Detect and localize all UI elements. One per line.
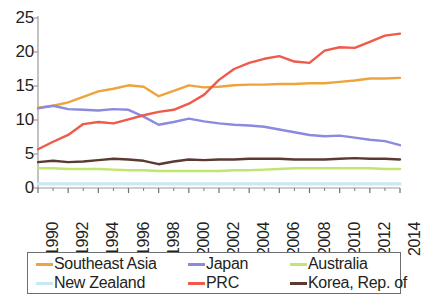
legend-item-korea-rep-of[interactable]: Korea, Rep. of <box>290 273 407 293</box>
legend-item-southeast-asia[interactable]: Southeast Asia <box>36 254 157 274</box>
axis-spine <box>38 16 400 188</box>
legend-color-swatch <box>188 282 205 285</box>
y-tick-label: 20 <box>4 43 34 60</box>
series-line-prc <box>38 34 400 150</box>
legend-color-swatch <box>188 263 205 266</box>
legend-item-prc[interactable]: PRC <box>188 273 239 293</box>
y-tick-label: 10 <box>4 111 34 128</box>
x-tick-label: 2010 <box>347 198 363 256</box>
y-tick-label: 25 <box>4 9 34 26</box>
legend-label: Australia <box>308 255 368 273</box>
legend-label: Korea, Rep. of <box>308 274 407 292</box>
legend-color-swatch <box>36 263 53 266</box>
x-tick-label: 1998 <box>166 198 182 256</box>
legend-item-japan[interactable]: Japan <box>188 254 248 274</box>
x-tick-label: 2012 <box>377 198 393 256</box>
x-axis-tick-labels: 1990199219941996199820002002200420062008… <box>0 190 403 250</box>
legend-color-swatch <box>290 263 307 266</box>
legend-row-2: New ZealandPRCKorea, Rep. of <box>28 273 400 293</box>
y-axis-tick-labels: 2520151050 <box>0 0 34 200</box>
y-tick-label: 5 <box>4 145 34 162</box>
legend-label: PRC <box>206 274 239 292</box>
x-tick-label: 1996 <box>136 198 152 256</box>
x-tick-label: 2002 <box>226 198 242 256</box>
x-tick-label: 2006 <box>286 198 302 256</box>
x-tick-label: 2004 <box>256 198 272 256</box>
x-tick-label: 2014 <box>407 198 423 256</box>
legend-item-new-zealand[interactable]: New Zealand <box>36 273 145 293</box>
series-line-australia <box>38 168 400 171</box>
legend-label: New Zealand <box>54 274 145 292</box>
legend-item-australia[interactable]: Australia <box>290 254 368 274</box>
legend-label: Japan <box>206 255 248 273</box>
legend-color-swatch <box>290 282 307 285</box>
legend-row-1: Southeast AsiaJapanAustralia <box>28 254 400 274</box>
x-tick-label: 1992 <box>75 198 91 256</box>
legend-label: Southeast Asia <box>54 255 157 273</box>
x-tick-label: 1994 <box>105 198 121 256</box>
series-line-japan <box>38 106 400 145</box>
series-line-korea-rep-of <box>38 158 400 164</box>
legend-color-swatch <box>36 282 53 285</box>
y-tick-label: 15 <box>4 77 34 94</box>
x-tick-label: 1990 <box>45 198 61 256</box>
x-tick-label: 2008 <box>317 198 333 256</box>
x-tick-label: 2000 <box>196 198 212 256</box>
series-line-southeast-asia <box>38 78 400 108</box>
chart-legend: Southeast AsiaJapanAustralia New Zealand… <box>27 252 401 294</box>
